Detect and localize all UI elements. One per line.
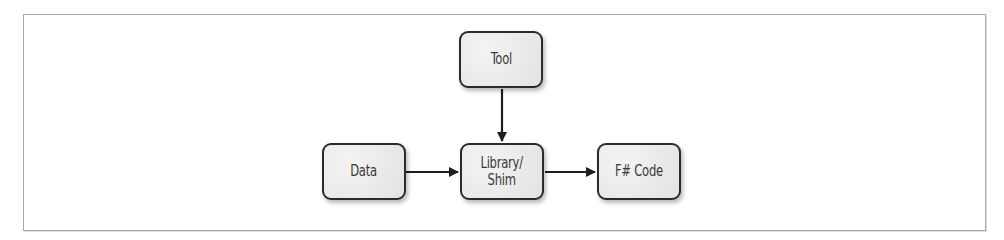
node-tool: Tool (459, 31, 543, 88)
node-fsharp-code: F# Code (597, 143, 681, 200)
node-library-shim: Library/ Shim (460, 143, 544, 200)
node-data: Data (322, 143, 406, 200)
node-tool-label: Tool (490, 51, 511, 68)
node-library-shim-label: Library/ Shim (481, 155, 523, 189)
node-data-label: Data (351, 163, 378, 180)
diagram-canvas: Tool Data Library/ Shim F# Code (0, 0, 1004, 240)
node-fsharp-code-label: F# Code (615, 163, 663, 180)
